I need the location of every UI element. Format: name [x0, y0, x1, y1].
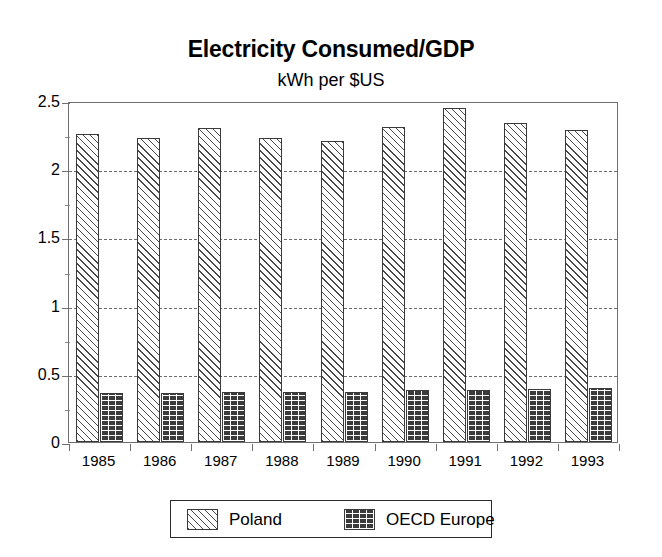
x-axis-tick — [375, 444, 376, 451]
x-axis-label: 1989 — [313, 452, 373, 469]
legend-label-poland: Poland — [229, 511, 282, 528]
y-axis-minor-tick — [65, 410, 70, 411]
bar-poland-1988 — [259, 138, 282, 442]
bar-poland-1987 — [198, 128, 221, 442]
bar-poland-1986 — [137, 138, 160, 442]
x-axis-tick — [252, 444, 253, 451]
x-axis-label: 1986 — [130, 452, 190, 469]
x-axis-tick — [497, 444, 498, 451]
chart-subtitle: kWh per $US — [0, 70, 662, 91]
bar-oecd-europe-1991 — [467, 390, 490, 443]
x-axis-tick — [130, 444, 131, 451]
legend-swatch-oecd-europe-icon — [344, 509, 375, 530]
bar-oecd-europe-1990 — [406, 390, 429, 442]
x-axis-label: 1985 — [69, 452, 129, 469]
y-axis-minor-tick — [65, 205, 70, 206]
bar-poland-1989 — [321, 141, 344, 442]
chart-title: Electricity Consumed/GDP — [0, 36, 662, 63]
bar-oecd-europe-1985 — [100, 393, 123, 442]
bar-poland-1992 — [504, 123, 527, 442]
x-axis-label: 1993 — [557, 452, 617, 469]
y-axis-label: 0.5 — [14, 367, 60, 383]
legend-label-oecd-europe: OECD Europe — [386, 511, 495, 528]
bar-poland-1990 — [382, 127, 405, 442]
bar-oecd-europe-1989 — [345, 392, 368, 442]
x-axis-label: 1990 — [374, 452, 434, 469]
bar-oecd-europe-1987 — [222, 392, 245, 442]
bar-oecd-europe-1992 — [528, 389, 551, 442]
x-axis-label: 1988 — [252, 452, 312, 469]
y-axis-label: 2 — [14, 162, 60, 178]
y-axis-tick — [62, 376, 70, 377]
y-axis-tick — [62, 171, 70, 172]
x-axis-tick — [69, 444, 70, 451]
chart-legend: Poland OECD Europe — [170, 500, 492, 538]
bar-oecd-europe-1988 — [283, 392, 306, 442]
x-axis-tick — [619, 444, 620, 451]
bar-oecd-europe-1986 — [161, 393, 184, 442]
x-axis-tick — [191, 444, 192, 451]
plot-area — [68, 102, 618, 443]
chart-container: Electricity Consumed/GDP kWh per $US 00.… — [0, 0, 662, 557]
x-axis-tick — [558, 444, 559, 451]
x-axis-label: 1992 — [496, 452, 556, 469]
y-axis-tick — [62, 103, 70, 104]
x-axis-tick — [313, 444, 314, 451]
y-axis-tick — [62, 239, 70, 240]
y-axis-minor-tick — [65, 342, 70, 343]
legend-item-poland: Poland — [187, 501, 282, 537]
y-axis-label: 0 — [14, 435, 60, 451]
legend-swatch-poland-icon — [187, 509, 218, 530]
y-axis-minor-tick — [65, 274, 70, 275]
x-axis-tick — [436, 444, 437, 451]
y-axis-label: 1 — [14, 299, 60, 315]
bar-oecd-europe-1993 — [589, 388, 612, 442]
y-axis-label: 2.5 — [14, 94, 60, 110]
bar-poland-1993 — [565, 130, 588, 442]
y-axis-minor-tick — [65, 137, 70, 138]
y-axis-label: 1.5 — [14, 230, 60, 246]
bar-poland-1985 — [76, 134, 99, 442]
legend-item-oecd-europe: OECD Europe — [344, 501, 495, 537]
x-axis-label: 1987 — [191, 452, 251, 469]
x-axis-label: 1991 — [435, 452, 495, 469]
y-axis-tick — [62, 308, 70, 309]
bar-poland-1991 — [443, 108, 466, 442]
